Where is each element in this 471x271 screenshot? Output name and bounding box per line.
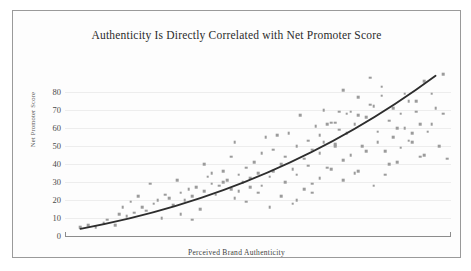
y-tick-label-10: 10 (37, 214, 61, 223)
y-tick-label-70: 70 (37, 106, 61, 115)
y-tick-label-80: 80 (37, 88, 61, 97)
x-axis-tick-start (65, 232, 66, 236)
plot-area (65, 74, 451, 236)
y-tick-label-60: 60 (37, 124, 61, 133)
chart-title: Authenticity Is Directly Correlated with… (13, 29, 460, 41)
y-axis-tick-labels: 80706050403020100 (35, 74, 61, 236)
chart-frame: Authenticity Is Directly Correlated with… (12, 10, 461, 258)
y-tick-label-40: 40 (37, 160, 61, 169)
y-tick-label-0: 0 (37, 232, 61, 241)
x-axis-line (65, 236, 451, 237)
y-tick-label-30: 30 (37, 178, 61, 187)
trend-line (65, 74, 451, 236)
y-tick-label-20: 20 (37, 196, 61, 205)
x-axis-title: Perceived Brand Authenticity (13, 248, 460, 257)
x-axis-tick-end (450, 232, 451, 236)
y-tick-label-50: 50 (37, 142, 61, 151)
chart-screenshot: Authenticity Is Directly Correlated with… (0, 0, 471, 271)
